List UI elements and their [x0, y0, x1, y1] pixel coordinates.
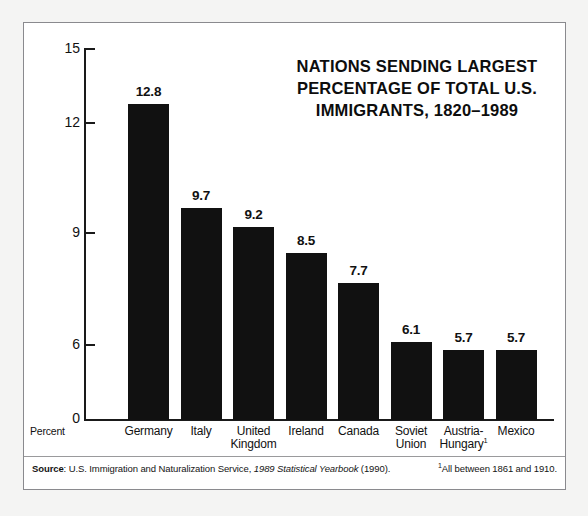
footnote-text: All between 1861 and 1910. — [442, 463, 557, 474]
x-tick-label-line: Hungary1 — [426, 438, 501, 451]
footnote: 1All between 1861 and 1910. — [438, 463, 557, 474]
bar-value-label-7: 5.7 — [486, 331, 547, 345]
source-agency: U.S. Immigration and Naturalization Serv… — [69, 463, 254, 474]
chart-frame: NATIONS SENDING LARGEST PERCENTAGE OF TO… — [23, 22, 566, 490]
source-year: (1990). — [358, 463, 390, 474]
x-tick-label-line: Kingdom — [216, 438, 291, 451]
bar-united-kingdom — [233, 227, 274, 420]
x-tick-label-line: Mexico — [479, 425, 554, 438]
bar-ireland — [286, 253, 327, 420]
bar-italy — [181, 208, 222, 420]
footer-divider — [24, 456, 565, 457]
source-publication: 1989 Statistical Yearbook — [254, 463, 359, 474]
bar-value-label-0: 12.8 — [118, 85, 179, 99]
plot-area: NATIONS SENDING LARGEST PERCENTAGE OF TO… — [24, 23, 565, 433]
bar-soviet-union — [391, 342, 432, 420]
source-label: Source — [32, 463, 64, 474]
bars-layer — [24, 23, 565, 420]
bar-germany — [128, 104, 169, 420]
bar-austria-hungary — [443, 350, 484, 420]
bar-mexico — [496, 350, 537, 420]
bar-canada — [338, 283, 379, 420]
y-axis-unit-label: Percent — [30, 425, 65, 437]
x-tick-label-7: Mexico — [479, 425, 554, 438]
bar-value-label-1: 9.7 — [171, 189, 232, 203]
source-note: Source: U.S. Immigration and Naturalizat… — [32, 463, 390, 474]
bar-value-label-2: 9.2 — [223, 208, 284, 222]
bar-value-label-3: 8.5 — [276, 234, 337, 248]
bar-value-label-4: 7.7 — [328, 264, 389, 278]
